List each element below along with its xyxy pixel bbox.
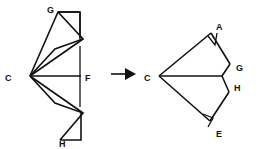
geometry-figure: G C F H (0, 0, 264, 149)
right-edge-hh2 (222, 76, 229, 92)
diagram-canvas: G C F H (0, 0, 264, 149)
left-label-G: G (47, 5, 54, 15)
right-figure-group: A C G H E (144, 22, 243, 139)
right-edge-gh (222, 64, 230, 76)
right-label-E: E (216, 129, 222, 139)
right-label-C: C (144, 73, 151, 83)
right-label-A: A (216, 22, 223, 32)
left-outer-boundary (30, 12, 80, 76)
right-edge-h2e (210, 92, 229, 121)
right-label-G: G (236, 63, 243, 73)
left-label-C: C (5, 73, 12, 83)
left-label-H: H (59, 139, 66, 149)
left-label-F: F (85, 73, 91, 83)
right-label-H: H (234, 83, 241, 93)
right-edge-ec (159, 76, 210, 121)
right-arrow-icon (111, 68, 136, 80)
left-figure-group: G C F H (5, 5, 91, 149)
left-chord-lower (30, 76, 83, 113)
right-edge-ca (159, 33, 211, 76)
right-edge-ag (211, 33, 230, 64)
